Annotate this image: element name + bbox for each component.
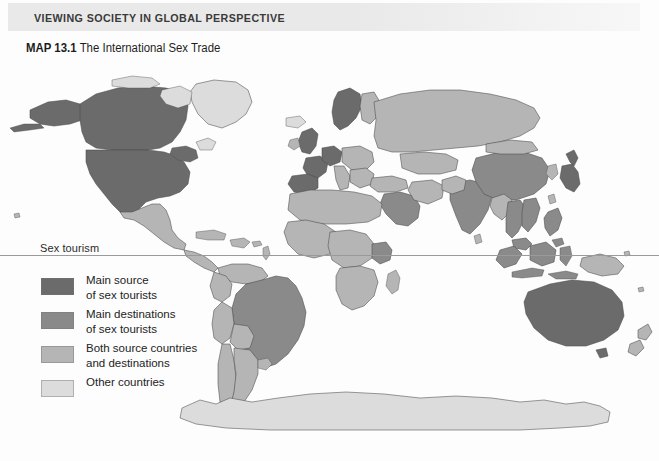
region-philippines-south bbox=[552, 238, 564, 247]
region-norway-sweden bbox=[332, 88, 362, 130]
legend-label-line2: and destinations bbox=[86, 356, 197, 371]
region-hawaii bbox=[14, 213, 20, 218]
region-central-africa bbox=[328, 230, 374, 268]
legend-swatch-main-destinations bbox=[41, 312, 74, 329]
region-java bbox=[512, 268, 544, 278]
region-arctic-islands bbox=[112, 76, 160, 88]
section-header-band: VIEWING SOCIETY IN GLOBAL PERSPECTIVE bbox=[8, 3, 640, 31]
map-legend: Main source of sex tourists Main destina… bbox=[41, 275, 271, 411]
region-alaska bbox=[30, 100, 86, 126]
region-new-zealand bbox=[638, 324, 652, 340]
region-north-africa bbox=[288, 190, 382, 224]
region-sri-lanka bbox=[474, 234, 482, 244]
legend-label-other: Other countries bbox=[86, 375, 165, 390]
region-greenland bbox=[190, 80, 252, 128]
legend-label-both: Both source countries and destinations bbox=[86, 341, 197, 370]
region-eastern-europe bbox=[342, 146, 374, 170]
region-japan bbox=[566, 150, 578, 166]
legend-item-both: Both source countries and destinations bbox=[41, 343, 271, 377]
legend-label-line1: Both source countries bbox=[86, 342, 197, 354]
region-iceland bbox=[286, 116, 306, 128]
region-hispaniola bbox=[230, 238, 250, 248]
region-china bbox=[472, 152, 550, 200]
page-title: MAP 13.1 The International Sex Trade bbox=[26, 41, 220, 55]
legend-label-line2: of sex tourists bbox=[86, 322, 176, 337]
map-title: The International Sex Trade bbox=[80, 41, 221, 55]
legend-item-main-source: Main source of sex tourists bbox=[41, 275, 271, 309]
region-central-america bbox=[184, 250, 218, 272]
legend-label-line1: Main destinations bbox=[86, 308, 176, 320]
region-papua-new-guinea bbox=[580, 254, 624, 276]
legend-item-other: Other countries bbox=[41, 377, 271, 411]
region-sulawesi bbox=[560, 246, 572, 266]
region-taiwan bbox=[548, 194, 556, 204]
region-lesser-antilles bbox=[263, 246, 270, 260]
region-philippines bbox=[544, 208, 562, 236]
legend-label-main-source: Main source of sex tourists bbox=[86, 273, 157, 302]
region-cuba bbox=[196, 230, 226, 240]
region-central-asia bbox=[400, 152, 458, 174]
legend-label-line2: of sex tourists bbox=[86, 288, 157, 303]
region-newfoundland bbox=[196, 138, 216, 150]
legend-title: Sex tourism bbox=[40, 242, 99, 254]
region-kenya bbox=[372, 242, 392, 264]
region-puerto-rico bbox=[252, 241, 262, 247]
legend-label-main-destinations: Main destinations of sex tourists bbox=[86, 307, 176, 336]
map-number: MAP 13.1 bbox=[26, 41, 76, 55]
section-header-title: VIEWING SOCIETY IN GLOBAL PERSPECTIVE bbox=[34, 12, 285, 24]
region-united-kingdom bbox=[298, 128, 318, 154]
legend-swatch-both bbox=[41, 346, 74, 363]
legend-label-line1: Main source bbox=[86, 274, 149, 286]
region-fiji bbox=[638, 287, 644, 292]
region-aleutians bbox=[10, 124, 44, 132]
region-turkey bbox=[370, 176, 408, 192]
region-italy bbox=[334, 166, 350, 190]
region-lesser-sunda bbox=[548, 271, 578, 279]
region-ireland bbox=[288, 138, 300, 150]
bottom-caption bbox=[26, 450, 636, 461]
region-japan-main bbox=[560, 164, 580, 192]
region-australia bbox=[524, 280, 624, 346]
region-united-states bbox=[86, 150, 190, 214]
legend-swatch-other bbox=[41, 380, 74, 397]
region-borneo bbox=[530, 242, 556, 266]
region-sumatra bbox=[496, 246, 522, 268]
equator-line bbox=[0, 255, 659, 256]
legend-swatch-main-source bbox=[41, 278, 74, 295]
region-tasmania bbox=[596, 348, 608, 358]
region-madagascar bbox=[386, 270, 400, 294]
legend-label-line1: Other countries bbox=[86, 376, 165, 388]
map-figure-page: VIEWING SOCIETY IN GLOBAL PERSPECTIVE MA… bbox=[0, 0, 659, 461]
region-southern-africa bbox=[336, 266, 378, 310]
region-new-zealand-south bbox=[628, 340, 644, 356]
legend-item-main-destinations: Main destinations of sex tourists bbox=[41, 309, 271, 343]
region-vietnam bbox=[522, 198, 540, 232]
